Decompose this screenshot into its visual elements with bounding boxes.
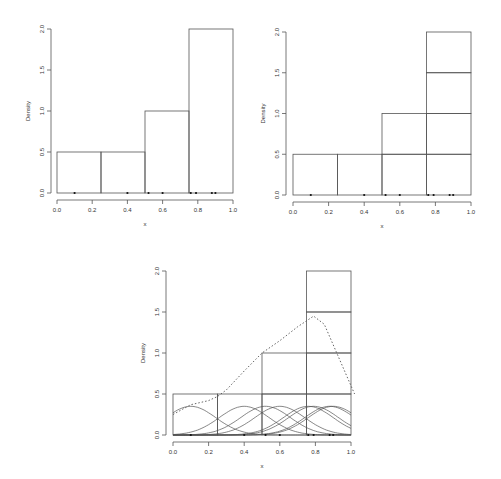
x-axis: 0.00.20.40.60.81.0x	[289, 202, 476, 229]
histogram-block	[293, 154, 338, 195]
y-axis: 0.00.51.01.52.0Density	[260, 27, 286, 199]
x-tick-label: 0.4	[123, 207, 132, 213]
x-tick-label: 0.4	[240, 449, 249, 455]
x-axis-label: x	[144, 221, 147, 227]
histogram-bar	[57, 152, 101, 193]
x-tick-label: 0.6	[396, 209, 405, 215]
x-tick-label: 1.0	[229, 207, 238, 213]
x-tick-label: 0.6	[276, 449, 285, 455]
y-tick-label: 2.0	[39, 24, 45, 33]
x-tick-label: 0.2	[88, 207, 97, 213]
x-tick-label: 0.8	[194, 207, 203, 213]
y-tick-label: 0.5	[274, 149, 280, 158]
y-axis: 0.00.51.01.52.0Density	[25, 24, 51, 197]
x-tick-label: 0.0	[53, 207, 62, 213]
histogram-bar	[101, 152, 145, 193]
data-point	[195, 192, 197, 194]
data-point	[310, 194, 312, 196]
y-tick-label: 0.0	[39, 188, 45, 197]
x-axis: 0.00.20.40.60.81.0x	[53, 200, 238, 227]
histogram-block	[307, 353, 352, 394]
data-point	[74, 192, 76, 194]
x-tick-label: 0.0	[169, 449, 178, 455]
data-point	[427, 194, 429, 196]
y-tick-label: 0.5	[154, 389, 160, 398]
histogram-bars	[173, 271, 351, 435]
x-axis: 0.00.20.40.60.81.0x	[169, 442, 356, 469]
x-tick-label: 1.0	[467, 209, 476, 215]
x-tick-label: 0.2	[204, 449, 213, 455]
data-point	[162, 192, 164, 194]
x-tick-label: 1.0	[347, 449, 356, 455]
data-point	[449, 194, 451, 196]
data-point	[243, 434, 245, 436]
histogram-block	[307, 312, 352, 353]
histogram-bars	[293, 32, 471, 195]
data-point	[329, 434, 331, 436]
data-point	[264, 434, 266, 436]
x-tick-label: 0.4	[360, 209, 369, 215]
kde-dotted-curve	[173, 316, 355, 414]
y-tick-label: 1.5	[154, 307, 160, 316]
x-tick-label: 0.8	[431, 209, 440, 215]
x-axis-label: x	[261, 463, 264, 469]
histogram-block	[427, 32, 472, 73]
y-tick-label: 2.0	[154, 266, 160, 275]
data-point	[190, 434, 192, 436]
y-tick-label: 0.5	[39, 147, 45, 156]
data-point	[126, 192, 128, 194]
y-tick-label: 0.0	[154, 430, 160, 439]
histogram-block	[427, 73, 472, 114]
y-tick-label: 0.0	[274, 190, 280, 199]
histogram-block	[338, 154, 383, 195]
x-axis-label: x	[381, 223, 384, 229]
x-tick-label: 0.6	[158, 207, 167, 213]
histogram-bar	[189, 29, 233, 193]
data-point	[363, 194, 365, 196]
y-tick-label: 1.0	[39, 106, 45, 115]
data-point	[399, 194, 401, 196]
data-point	[452, 194, 454, 196]
x-tick-label: 0.2	[324, 209, 333, 215]
data-point	[332, 434, 334, 436]
histogram-block	[262, 353, 307, 394]
y-tick-label: 1.5	[274, 68, 280, 77]
y-tick-label: 1.0	[154, 348, 160, 357]
y-axis: 0.00.51.01.52.0Density	[140, 266, 166, 439]
y-axis-label: Density	[25, 101, 31, 121]
data-point	[307, 434, 309, 436]
histogram-block	[382, 114, 427, 155]
data-point	[190, 192, 192, 194]
y-tick-label: 1.5	[39, 65, 45, 74]
histogram-block	[307, 271, 352, 312]
data-point	[211, 192, 213, 194]
histogram-bar	[145, 111, 189, 193]
data-point	[214, 192, 216, 194]
data-point	[279, 434, 281, 436]
data-point	[384, 194, 386, 196]
histogram-block	[382, 154, 427, 195]
y-tick-label: 1.0	[274, 109, 280, 118]
stacked-block-histogram-plot: 0.00.51.01.52.0Density0.00.20.40.60.81.0…	[260, 27, 476, 229]
y-tick-label: 2.0	[274, 27, 280, 36]
kernel-density-plot: 0.00.51.01.52.0Density0.00.20.40.60.81.0…	[140, 266, 356, 469]
x-tick-label: 0.0	[289, 209, 298, 215]
data-point	[147, 192, 149, 194]
y-axis-label: Density	[140, 343, 146, 363]
x-tick-label: 0.8	[311, 449, 320, 455]
data-point	[433, 194, 435, 196]
y-axis-label: Density	[260, 103, 266, 123]
histogram-block	[427, 114, 472, 155]
data-point	[313, 434, 315, 436]
histogram-plot: 0.00.51.01.52.0Density0.00.20.40.60.81.0…	[25, 24, 238, 227]
figure-canvas: 0.00.51.01.52.0Density0.00.20.40.60.81.0…	[0, 0, 501, 479]
histogram-block	[427, 154, 472, 195]
histogram-bars	[57, 29, 233, 193]
